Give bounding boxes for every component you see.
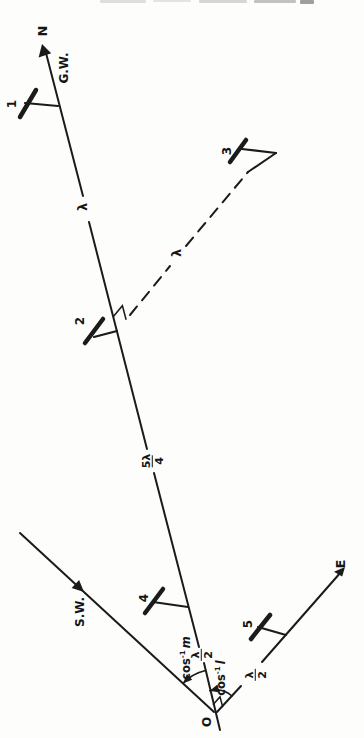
sw-label: S.W. [74, 597, 86, 627]
angle-label-cos-m: cos-1m [179, 636, 192, 679]
station-mark-2 [85, 319, 117, 343]
east-label: E [334, 560, 347, 569]
diagram-geometry [0, 0, 364, 738]
station-label-1: 1 [6, 100, 18, 108]
distance-label-lambda: λ [76, 203, 89, 211]
north-label: N [36, 26, 49, 37]
station-label-2: 2 [74, 317, 86, 325]
station-label-3: 3 [221, 147, 233, 155]
distance-label-half-lambda-east: λ 2 [240, 669, 268, 681]
station-mark-4 [145, 589, 188, 613]
main-baseline [46, 53, 220, 730]
sw-line [20, 533, 214, 712]
scanned-figure-page: N G.W. 1 λ 2 λ 3 5λ 4 4 λ 2 cos-1m cos-1… [0, 0, 364, 738]
station-label-5: 5 [242, 620, 254, 628]
distance-label-5lambda-4: 5λ 4 [137, 452, 165, 471]
gw-label: G.W. [58, 52, 70, 83]
right-angle-mark-2 [113, 306, 126, 320]
angle-label-cos-l: cos-1l [214, 660, 227, 695]
station-label-4: 4 [138, 594, 150, 602]
station-mark-5 [251, 615, 286, 639]
station-mark-1 [20, 90, 58, 117]
origin-label: O [201, 717, 213, 727]
north-arrowhead [39, 44, 52, 58]
dashed-sightline [130, 172, 248, 315]
east-line [217, 572, 341, 712]
station-mark-3 [230, 140, 276, 172]
sightline-label-lambda: λ [170, 249, 183, 257]
